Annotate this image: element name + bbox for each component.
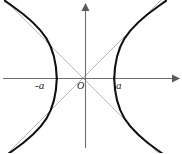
hyperbola-figure: -a O a [0,0,182,153]
asymptote-group [5,0,177,153]
label-positive-vertex: a [116,80,122,91]
left-branch-upper-curve [5,1,57,79]
label-origin: O [77,81,84,91]
asymptote-rising-icon [5,0,177,153]
label-negative-vertex: -a [35,80,44,91]
y-axis-arrow-icon [82,3,90,11]
hyperbola-diagram-svg [0,0,182,153]
x-axis-arrow-icon [172,75,180,83]
left-branch-lower-curve [5,79,57,154]
